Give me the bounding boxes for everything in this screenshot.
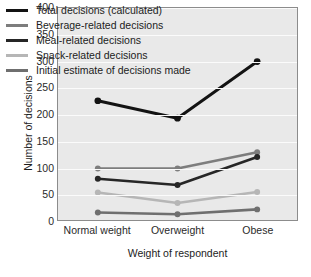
x-tick-label: Overweight [151, 224, 204, 236]
legend-line-swatch [6, 24, 28, 27]
x-tick-label: Normal weight [64, 224, 131, 236]
data-point-marker [254, 189, 260, 195]
legend-item[interactable]: Beverage-related decisions [6, 18, 191, 33]
legend-item[interactable]: Initial estimate of decisions made [6, 63, 191, 78]
gridline [58, 169, 297, 170]
line-chart: Number of decisions 05010015020025030035… [0, 0, 311, 277]
data-point-marker [95, 176, 101, 182]
x-axis-title: Weight of respondent [57, 247, 298, 259]
x-tick-label: Obese [242, 224, 273, 236]
gridline [58, 115, 297, 116]
y-tick-label: 0 [48, 215, 54, 227]
legend-item-label: Beverage-related decisions [36, 18, 163, 33]
legend-item[interactable]: Snack-related decisions [6, 48, 191, 63]
data-point-marker [175, 182, 181, 188]
legend-item-label: Initial estimate of decisions made [36, 63, 191, 78]
y-tick-label: 150 [36, 135, 54, 147]
data-point-marker [254, 154, 260, 160]
legend-item[interactable]: Total decisions (calculated) [6, 3, 191, 18]
gridline [58, 142, 297, 143]
gridline [58, 195, 297, 196]
legend-line-swatch [6, 9, 28, 12]
legend-item-label: Snack-related decisions [36, 48, 147, 63]
data-point-marker [175, 200, 181, 206]
data-point-marker [94, 97, 101, 104]
y-tick-label: 250 [36, 81, 54, 93]
legend-line-swatch [6, 39, 28, 42]
data-point-marker [95, 210, 101, 216]
chart-legend: Total decisions (calculated)Beverage-rel… [6, 3, 191, 78]
y-tick-label: 100 [36, 162, 54, 174]
y-tick-label: 200 [36, 108, 54, 120]
legend-line-swatch [6, 54, 28, 57]
data-point-marker [254, 206, 260, 212]
data-point-marker [175, 211, 181, 217]
gridline [58, 88, 297, 89]
legend-item[interactable]: Meal-related decisions [6, 33, 191, 48]
legend-item-label: Meal-related decisions [36, 33, 141, 48]
legend-item-label: Total decisions (calculated) [36, 3, 162, 18]
y-tick-label: 50 [42, 188, 54, 200]
legend-line-swatch [6, 69, 28, 72]
x-axis-tick-labels: Normal weightOverweightObese [57, 224, 298, 240]
